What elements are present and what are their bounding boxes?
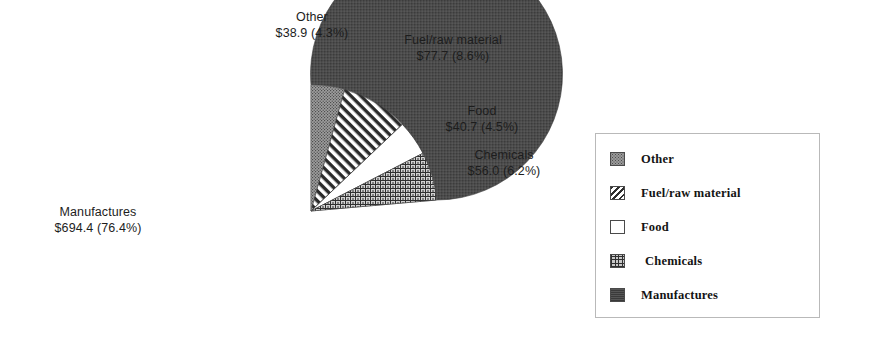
slice-label-other-name: Other [249,10,375,26]
legend-item-other: Other [610,142,810,176]
legend-label-fuel-raw-material: Fuel/raw material [641,186,741,201]
legend-swatch-other-icon [610,152,625,166]
legend-swatch-food-icon [610,220,625,234]
legend-swatch-chemicals-icon [610,254,625,268]
slice-label-fuel-raw-material: Fuel/raw material $77.7 (8.6%) [382,33,524,64]
legend-item-chemicals: Chemicals [610,244,810,278]
slice-label-chemicals-name: Chemicals [440,148,568,164]
slice-label-food-name: Food [425,104,539,120]
legend-item-food: Food [610,210,810,244]
legend-swatch-fuel-raw-material-icon [610,186,625,200]
chart-legend: Other Fuel/raw material Food Chemicals M… [595,133,820,318]
pie-chart-figure: Other $38.9 (4.3%) Fuel/raw material $77… [0,0,886,353]
slice-label-fuel-raw-material-name: Fuel/raw material [382,33,524,49]
legend-label-food: Food [641,220,669,235]
slice-label-manufactures-value: $694.4 (76.4%) [22,221,174,237]
legend-item-fuel-raw-material: Fuel/raw material [610,176,810,210]
slice-label-food-value: $40.7 (4.5%) [425,120,539,136]
legend-label-manufactures: Manufactures [641,288,718,303]
legend-item-manufactures: Manufactures [610,278,810,312]
slice-label-other-value: $38.9 (4.3%) [249,26,375,42]
slice-label-food: Food $40.7 (4.5%) [425,104,539,135]
legend-label-chemicals: Chemicals [645,254,702,269]
legend-swatch-manufactures-icon [610,288,625,302]
slice-label-chemicals-value: $56.0 (6.2%) [440,164,568,180]
slice-label-chemicals: Chemicals $56.0 (6.2%) [440,148,568,179]
legend-list: Other Fuel/raw material Food Chemicals M… [610,142,810,312]
slice-label-manufactures-name: Manufactures [22,205,174,221]
legend-label-other: Other [641,152,674,167]
slice-label-other: Other $38.9 (4.3%) [249,10,375,41]
slice-label-fuel-raw-material-value: $77.7 (8.6%) [382,49,524,65]
slice-label-manufactures: Manufactures $694.4 (76.4%) [22,205,174,236]
